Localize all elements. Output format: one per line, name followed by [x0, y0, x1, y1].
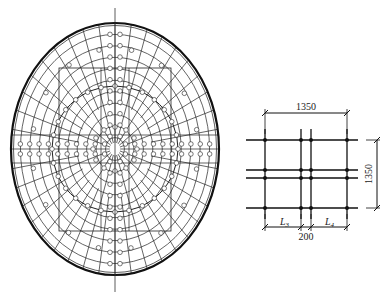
- top-dimension: 1350: [262, 101, 350, 134]
- elliptical-grid-plan: [11, 8, 219, 292]
- grid-lines: [246, 129, 358, 219]
- diagram-canvas: 1350 1350 L3 L4 200: [0, 0, 386, 293]
- right-dimension: 1350: [363, 137, 380, 211]
- grid-detail-figure: 1350 1350 L3 L4 200: [246, 101, 380, 242]
- right-dimension-label: 1350: [363, 164, 374, 184]
- bottom-dimension: L3 L4 200: [262, 214, 350, 242]
- top-dimension-label: 1350: [296, 101, 316, 112]
- gap-dimension-label: 200: [299, 231, 314, 242]
